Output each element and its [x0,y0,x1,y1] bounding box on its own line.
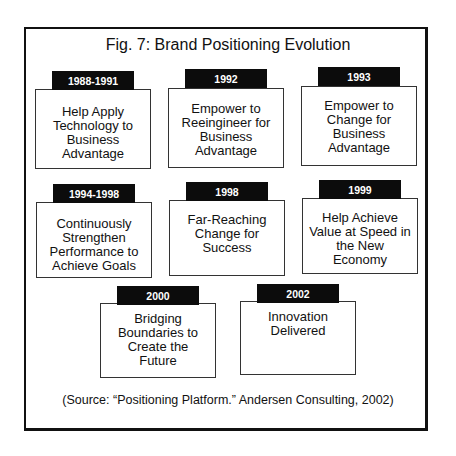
position-text: Help Apply Technology to Business Advant… [51,105,135,161]
position-box-1994-1998: Continuously Strengthen Performance to A… [36,202,152,278]
position-text: Innovation Delivered [263,310,333,338]
position-box-1988-1991: Help Apply Technology to Business Advant… [35,89,151,169]
position-text: Empower to Change for Business Advantage [319,99,399,155]
period-label: 1999 [319,180,401,199]
position-text: Help Achieve Value at Speed in the New E… [308,211,412,267]
position-text: Far-Reaching Change for Success [187,213,267,255]
period-label: 1988-1991 [52,71,134,90]
position-box-1993: Empower to Change for Business Advantage [301,86,417,166]
period-label: 1998 [186,182,268,201]
position-box-2002: Innovation Delivered [240,301,356,375]
position-box-1999: Help Achieve Value at Speed in the New E… [302,198,418,274]
period-label: 2000 [117,286,199,305]
source-citation: (Source: “Positioning Platform.” Anderse… [0,393,456,407]
position-text: Empower to Reeingineer for Business Adva… [176,102,276,158]
position-box-1998: Far-Reaching Change for Success [169,200,285,276]
period-label: 1994-1998 [53,184,135,203]
position-text: Bridging Boundaries to Create the Future [108,312,208,368]
position-box-1992: Empower to Reeingineer for Business Adva… [168,88,284,168]
period-label: 1993 [318,67,400,86]
figure-title: Fig. 7: Brand Positioning Evolution [0,36,456,54]
period-label: 2002 [257,284,339,303]
position-box-2000: Bridging Boundaries to Create the Future [100,303,216,378]
period-label: 1992 [185,69,267,88]
position-text: Continuously Strengthen Performance to A… [45,217,143,273]
